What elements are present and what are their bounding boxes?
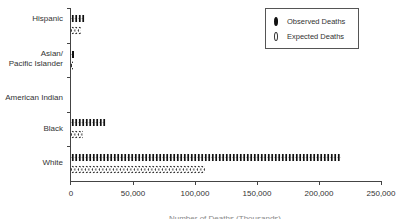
x-tick-label: 150,000 [243,189,272,198]
category-label-asian-line1: Asian/ [41,49,63,59]
x-tick-label: 250,000 [367,189,396,198]
pictograph-chart: 0 50,000 100,000 150,000 200,000 250,000… [0,0,401,219]
category-label-asian-line2: Pacific Islander [9,59,63,69]
legend-item-observed: Observed Deaths [274,15,345,27]
bar-observed-black [71,118,106,127]
bar-expected-black [71,130,83,139]
x-tick [381,181,382,185]
x-axis [70,181,382,182]
legend-label: Observed Deaths [287,17,345,26]
bar-expected-asian [71,61,73,70]
bar-observed-white [71,153,341,162]
y-tick [67,112,71,113]
category-label-american-indian: American Indian [5,93,63,103]
filled-person-icon [274,17,278,26]
bar-observed-hispanic [71,14,85,23]
x-axis-title: Number of Deaths (Thousands) [150,214,300,219]
x-tick [257,181,258,185]
x-tick [133,181,134,185]
y-tick [67,77,71,78]
legend-item-expected: Expected Deaths [274,30,344,42]
legend-label: Expected Deaths [287,32,344,41]
category-label-white: White [43,158,63,168]
category-label-black: Black [43,124,63,134]
bar-expected-hispanic [71,26,81,35]
x-tick-label: 200,000 [305,189,334,198]
y-tick [67,146,71,147]
y-tick [67,8,71,9]
y-tick [67,43,71,44]
x-tick [70,181,71,185]
legend: Observed Deaths Expected Deaths [265,8,359,49]
x-tick [195,181,196,185]
x-tick [319,181,320,185]
category-label-hispanic: Hispanic [32,14,63,24]
x-tick-label: 50,000 [121,189,145,198]
x-axis-title-clipped: Number of Deaths (Thousands) [150,214,300,219]
x-tick-label: 0 [69,189,73,198]
bar-observed-asian [71,50,75,59]
x-tick-label: 100,000 [181,189,210,198]
bar-expected-white [71,165,205,174]
outline-person-icon [274,32,278,41]
